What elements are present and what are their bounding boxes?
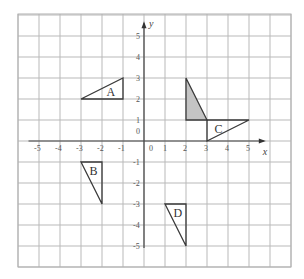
y-tick-label: -3 (133, 200, 140, 209)
y-tick-label: -4 (133, 221, 140, 230)
triangle-c-label: C (215, 122, 223, 136)
x-tick-label: 0 (149, 144, 153, 153)
y-tick-label: -1 (133, 158, 140, 167)
x-tick-label: 5 (246, 144, 250, 153)
y-tick-label: 3 (136, 74, 140, 83)
y-tick-label: -5 (133, 242, 140, 251)
axes: x y (29, 18, 268, 249)
triangle-d-label: D (174, 206, 183, 220)
x-tick-label: -1 (118, 144, 125, 153)
x-tick-label: 4 (225, 144, 229, 153)
x-tick-label: -2 (97, 144, 104, 153)
triangle-a-label: A (106, 85, 115, 99)
x-tick-label: -4 (55, 144, 62, 153)
y-tick-label: 4 (136, 53, 140, 62)
x-tick-label: -3 (76, 144, 83, 153)
x-axis-arrow-icon (259, 139, 266, 144)
y-tick-label: 2 (136, 95, 140, 104)
x-tick-label: 1 (163, 144, 167, 153)
x-axis-label: x (262, 146, 268, 157)
y-tick-label: 1 (136, 116, 140, 125)
y-axis-arrow-icon (142, 21, 147, 28)
coordinate-grid-diagram: x y -5-4-3-2-1012345543210-1-2-3-4-5 A B… (0, 0, 304, 279)
x-tick-label: 3 (204, 144, 208, 153)
y-tick-label: 0 (136, 127, 140, 136)
x-tick-label: 2 (183, 144, 187, 153)
y-tick-label: -2 (133, 179, 140, 188)
x-tick-label: -5 (34, 144, 41, 153)
triangle-b-label: B (90, 164, 98, 178)
y-axis-label: y (148, 18, 154, 29)
y-tick-label: 5 (136, 32, 140, 41)
